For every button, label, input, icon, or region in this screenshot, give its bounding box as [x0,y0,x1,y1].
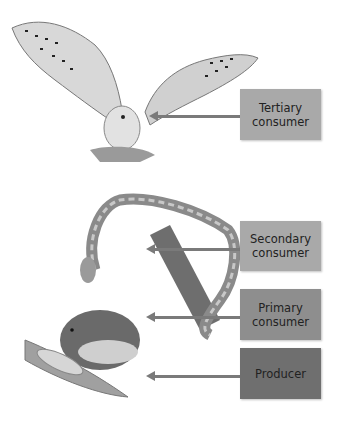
label-line1: Secondary [250,232,311,246]
label-line1: Primary [258,301,302,315]
arrow-producer [152,375,240,378]
arrow-tertiary [155,115,240,118]
label-secondary-consumer: Secondaryconsumer [240,221,321,271]
label-line1: Tertiary [259,101,302,115]
label-line2: consumer [252,315,309,329]
label-line1: Producer [255,367,306,381]
label-primary-consumer: Primaryconsumer [240,289,321,340]
label-line2: consumer [252,115,309,129]
owl-illustration [12,22,258,162]
label-producer: Producer [240,348,321,399]
label-tertiary-consumer: Tertiaryconsumer [240,89,321,140]
label-line2: consumer [252,246,309,260]
arrow-primary [152,316,240,319]
arrow-secondary [152,248,240,251]
